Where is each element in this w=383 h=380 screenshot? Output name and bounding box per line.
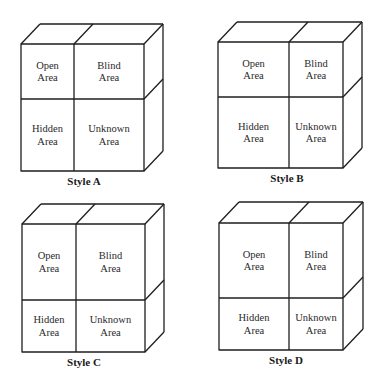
windows-layer: OpenAreaBlindAreaHiddenAreaUnknownAreaSt… <box>21 22 363 368</box>
open-area-label-line: Open <box>36 60 59 71</box>
open-area-label: OpenArea <box>36 60 59 84</box>
top-face <box>218 22 362 42</box>
open-area-label-line: Open <box>243 249 266 260</box>
unknown-area-label-line: Area <box>306 325 327 336</box>
blind-area-label: BlindArea <box>99 250 123 274</box>
hidden-area-label-line: Area <box>37 136 58 147</box>
style-caption: Style C <box>67 356 101 368</box>
blind-area-label: BlindArea <box>304 249 328 273</box>
open-area-label-line: Area <box>243 70 264 81</box>
style-caption: Style B <box>270 172 304 184</box>
unknown-area-label-line: Unknown <box>88 123 130 134</box>
blind-area-label-line: Area <box>306 70 327 81</box>
blind-area-label: BlindArea <box>304 58 328 82</box>
side-face <box>144 24 163 171</box>
blind-area-label-line: Blind <box>99 250 123 261</box>
unknown-area-label-line: Unknown <box>90 314 132 325</box>
johari-window-style-c: OpenAreaBlindAreaHiddenAreaUnknownAreaSt… <box>22 204 164 368</box>
johari-window-styles-diagram: OpenAreaBlindAreaHiddenAreaUnknownAreaSt… <box>0 0 383 380</box>
hidden-area-label-line: Hidden <box>32 123 64 134</box>
hidden-area-label-line: Area <box>39 327 60 338</box>
side-face <box>343 22 362 168</box>
open-area-label-line: Open <box>242 58 265 69</box>
top-face <box>21 24 163 44</box>
side-face <box>145 204 164 352</box>
unknown-area-label-line: Area <box>99 136 120 147</box>
hidden-area-label-line: Hidden <box>238 121 270 132</box>
open-area-label: OpenArea <box>243 249 266 273</box>
style-caption: Style A <box>67 175 100 187</box>
open-area-label: OpenArea <box>242 58 265 82</box>
blind-area-label-line: Area <box>306 261 327 272</box>
hidden-area-label-line: Hidden <box>239 312 271 323</box>
unknown-area-label-line: Area <box>100 327 121 338</box>
style-caption: Style D <box>269 354 303 366</box>
side-face <box>343 202 363 350</box>
top-face <box>219 202 363 223</box>
open-area-label-line: Area <box>37 72 58 83</box>
johari-window-style-a: OpenAreaBlindAreaHiddenAreaUnknownAreaSt… <box>21 24 163 187</box>
blind-area-label-line: Area <box>99 72 120 83</box>
hidden-area-label-line: Area <box>243 133 264 144</box>
open-area-label: OpenArea <box>38 250 61 274</box>
open-area-label-line: Area <box>244 261 265 272</box>
johari-window-style-d: OpenAreaBlindAreaHiddenAreaUnknownAreaSt… <box>219 202 363 366</box>
blind-area-label: BlindArea <box>97 60 121 84</box>
unknown-area-label-line: Unknown <box>295 312 337 323</box>
blind-area-label-line: Blind <box>304 249 328 260</box>
open-area-label-line: Area <box>39 263 60 274</box>
blind-area-label-line: Area <box>100 263 121 274</box>
hidden-area-label-line: Area <box>244 325 265 336</box>
blind-area-label-line: Blind <box>304 58 328 69</box>
open-area-label-line: Open <box>38 250 61 261</box>
johari-window-style-b: OpenAreaBlindAreaHiddenAreaUnknownAreaSt… <box>218 22 362 184</box>
blind-area-label-line: Blind <box>97 60 121 71</box>
unknown-area-label-line: Unknown <box>295 121 337 132</box>
unknown-area-label-line: Area <box>306 133 327 144</box>
hidden-area-label-line: Hidden <box>34 314 66 325</box>
